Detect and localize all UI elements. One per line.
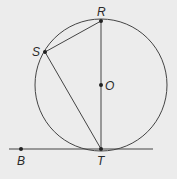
point-o [99, 83, 103, 87]
point-b [19, 147, 23, 151]
point-t [99, 147, 103, 151]
label-o: O [105, 79, 114, 93]
background [0, 0, 177, 179]
label-r: R [97, 5, 106, 19]
label-s: S [32, 45, 40, 59]
circle-diagram: R S O T B [0, 0, 177, 179]
point-s [43, 50, 47, 54]
label-b: B [17, 154, 25, 168]
point-r [99, 19, 103, 23]
